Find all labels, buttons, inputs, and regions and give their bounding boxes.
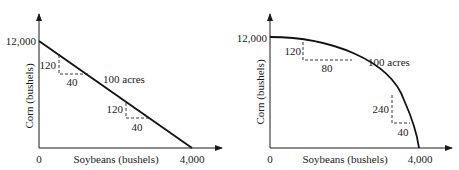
left-x-tick-4000: 4,000 xyxy=(180,153,205,165)
right-y-axis-label: Corn (bushels) xyxy=(254,59,267,124)
ppf-figure: 12,000 0 4,000 Soybeans (bushels) Corn (… xyxy=(0,0,459,170)
right-origin-label: 0 xyxy=(267,153,273,165)
left-tri1-rise: 120 xyxy=(40,59,57,71)
left-y-tick-12000: 12,000 xyxy=(6,35,37,47)
left-curve-label: 100 acres xyxy=(103,73,145,85)
left-y-axis-label: Corn (bushels) xyxy=(23,63,36,128)
right-tri2-run: 40 xyxy=(398,126,410,138)
left-origin-label: 0 xyxy=(36,153,42,165)
right-x-tick-4000: 4,000 xyxy=(408,153,433,165)
right-y-tick-12000: 12,000 xyxy=(237,32,268,44)
right-tri1-rise: 120 xyxy=(285,45,302,57)
left-tri2-run: 40 xyxy=(132,121,144,133)
left-x-axis-label: Soybeans (bushels) xyxy=(73,153,159,166)
right-x-axis-label: Soybeans (bushels) xyxy=(302,153,388,166)
right-curve-label: 100 acres xyxy=(368,56,410,68)
right-tri1-run: 80 xyxy=(322,62,334,74)
left-ppf-line xyxy=(39,41,192,148)
left-tri1-run: 40 xyxy=(67,76,79,88)
right-tri2-rise: 240 xyxy=(373,103,390,115)
left-tri2-rise: 120 xyxy=(107,103,124,115)
left-chart: 12,000 0 4,000 Soybeans (bushels) Corn (… xyxy=(6,14,222,166)
right-chart: 12,000 0 4,000 Soybeans (bushels) Corn (… xyxy=(237,14,452,166)
